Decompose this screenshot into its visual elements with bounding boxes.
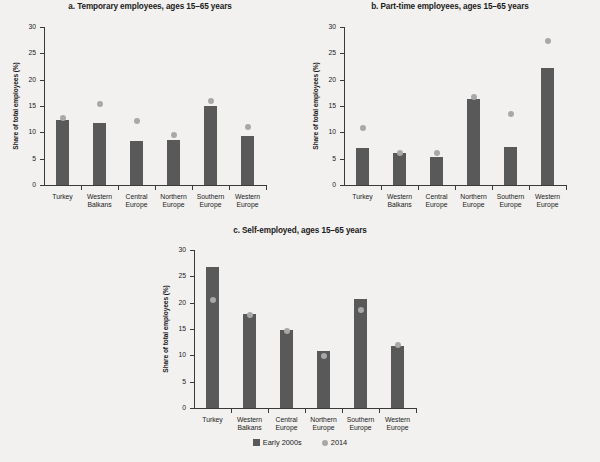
y-tick-label: 5 [18,155,36,162]
chart-panel-b: b. Part-time employees, ages 15–65 years… [300,2,600,224]
y-tick-label: 15 [318,102,336,109]
legend-item-0: Early 2000s [253,438,302,447]
x-tick-separator [231,409,232,413]
y-tick [40,159,44,160]
x-tick-separator [305,409,306,413]
x-tick-separator [492,186,493,190]
y-tick-label: 15 [18,102,36,109]
dot-b-5 [545,38,551,44]
dot-b-2 [434,150,440,156]
y-tick [40,132,44,133]
dot-a-2 [134,118,140,124]
x-category-label: Western Balkans [81,193,118,210]
dot-c-5 [395,342,401,348]
x-category-label: Western Europe [229,193,266,210]
dot-b-3 [471,94,477,100]
x-tick-separator [379,409,380,413]
y-axis-line [194,250,195,409]
dot-a-4 [208,98,214,104]
y-tick-label: 25 [168,272,186,279]
y-tick [190,276,194,277]
bar-c-4 [354,299,367,408]
x-tick-separator [342,409,343,413]
y-tick [190,408,194,409]
x-category-label: Turkey [194,416,231,424]
bar-b-5 [541,68,554,185]
y-tick [40,27,44,28]
y-tick-label: 0 [318,181,336,188]
legend-bar-swatch-icon [253,439,260,446]
bar-c-1 [243,314,256,408]
x-category-label: Central Europe [268,416,305,433]
plot-area-a: 051015202530TurkeyWestern BalkansCentral… [44,27,266,185]
figure-root: a. Temporary employees, ages 15–65 years… [0,0,600,462]
bar-c-3 [317,351,330,408]
x-category-label: Western Europe [529,193,566,210]
x-tick-separator [81,186,82,190]
bar-b-1 [393,153,406,185]
dot-c-0 [210,297,216,303]
legend-item-1: 2014 [322,438,347,447]
y-tick-label: 30 [18,23,36,30]
x-tick-separator [266,186,267,190]
y-tick [340,159,344,160]
dot-c-4 [358,307,364,313]
y-tick [340,106,344,107]
x-category-label: Turkey [44,193,81,201]
x-category-label: Central Europe [418,193,455,210]
y-tick [340,185,344,186]
y-tick-label: 30 [318,23,336,30]
bar-a-5 [241,136,254,185]
y-tick [190,355,194,356]
plot-area-b: 051015202530TurkeyWestern BalkansCentral… [344,27,566,185]
chart-panel-c: c. Self-employed, ages 15–65 yearsShare … [150,226,450,436]
dot-c-2 [284,328,290,334]
y-tick-label: 5 [168,378,186,385]
y-tick [40,53,44,54]
bar-a-2 [130,141,143,185]
x-tick-separator [229,186,230,190]
x-tick-separator [418,186,419,190]
y-tick-label: 0 [168,404,186,411]
y-tick [40,106,44,107]
dot-a-5 [245,124,251,130]
y-axis-line [44,27,45,186]
x-category-label: Western Balkans [381,193,418,210]
dot-b-4 [508,111,514,117]
y-tick-label: 10 [318,128,336,135]
x-tick-separator [529,186,530,190]
y-axis-line [344,27,345,186]
y-tick [340,27,344,28]
panel-title-c: c. Self-employed, ages 15–65 years [150,226,450,235]
panel-title-a: a. Temporary employees, ages 15–65 years [0,2,300,11]
panel-title-b: b. Part-time employees, ages 15–65 years [300,2,600,11]
x-tick-separator [416,409,417,413]
chart-legend: Early 2000s2014 [0,438,600,447]
x-category-label: Southern Europe [492,193,529,210]
y-tick [340,53,344,54]
bar-b-0 [356,148,369,185]
y-tick [340,80,344,81]
bar-a-0 [56,120,69,185]
legend-dot-swatch-icon [322,440,328,446]
y-tick [190,329,194,330]
x-category-label: Turkey [344,193,381,201]
bar-a-3 [167,140,180,185]
y-tick [40,80,44,81]
dot-c-1 [247,312,253,318]
y-tick-label: 0 [18,181,36,188]
bar-c-2 [280,330,293,408]
x-category-label: Northern Europe [305,416,342,433]
x-tick-separator [192,186,193,190]
chart-panel-a: a. Temporary employees, ages 15–65 years… [0,2,300,224]
x-tick-separator [118,186,119,190]
x-category-label: Southern Europe [342,416,379,433]
y-tick [190,250,194,251]
bar-a-1 [93,123,106,185]
y-tick-label: 20 [18,76,36,83]
bar-b-2 [430,157,443,185]
y-tick-label: 25 [318,49,336,56]
bar-b-3 [467,99,480,185]
plot-area-c: 051015202530TurkeyWestern BalkansCentral… [194,250,416,408]
x-category-label: Western Europe [379,416,416,433]
